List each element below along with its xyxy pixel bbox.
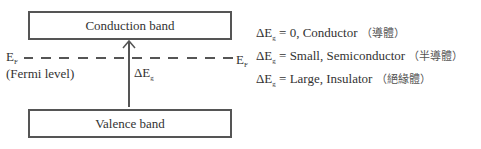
legend-item-insulator: ΔEg = Large, Insulator （絕緣體）: [256, 70, 463, 93]
band-gap-legend: ΔEg = 0, Conductor （導體） ΔEg = Small, Sem…: [256, 24, 463, 93]
valence-band-label: Valence band: [95, 116, 165, 132]
legend-item-conductor: ΔEg = 0, Conductor （導體）: [256, 24, 463, 47]
legend-item-semiconductor: ΔEg = Small, Semiconductor （半導體）: [256, 47, 463, 70]
conduction-band-label: Conduction band: [85, 18, 174, 34]
fermi-left-label: EF: [6, 49, 18, 66]
valence-band-box: Valence band: [28, 109, 232, 138]
arrow-head-icon: [122, 39, 136, 49]
energy-gap-label: ΔEg: [134, 65, 154, 82]
energy-gap-arrow: [128, 42, 130, 107]
conduction-band-box: Conduction band: [28, 11, 232, 40]
fermi-right-label: EF: [236, 52, 248, 69]
fermi-level-caption: (Fermi level): [6, 66, 74, 82]
